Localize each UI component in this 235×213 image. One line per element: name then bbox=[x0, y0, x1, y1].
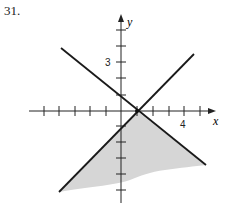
y-axis-label: y bbox=[126, 15, 133, 29]
x-tick-label: 4 bbox=[180, 119, 186, 130]
y-axis-arrow-icon bbox=[118, 14, 124, 22]
x-axis-label: x bbox=[212, 114, 219, 128]
graph: 3 4 y x bbox=[0, 0, 235, 213]
y-tick-label: 3 bbox=[105, 57, 111, 68]
intersection-point bbox=[135, 109, 139, 113]
